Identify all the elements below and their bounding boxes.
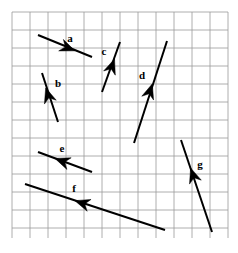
vector-label-e: e <box>60 142 65 154</box>
vector-label-g: g <box>197 158 203 170</box>
vector-label-c: c <box>102 45 107 57</box>
diagram-canvas: abcdefg <box>0 0 238 253</box>
vector-label-f: f <box>72 182 76 194</box>
vector-diagram-figure: abcdefg <box>0 0 238 253</box>
vector-label-d: d <box>139 69 145 81</box>
vector-label-a: a <box>67 32 73 44</box>
vector-label-b: b <box>55 77 61 89</box>
